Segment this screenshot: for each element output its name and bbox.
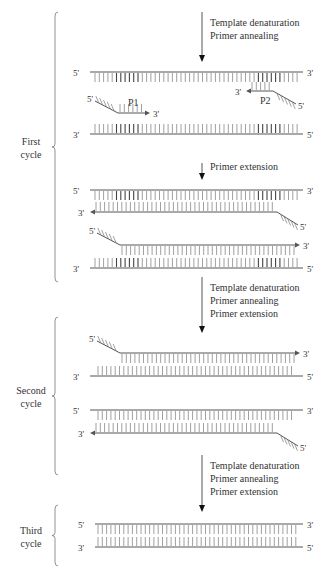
five-prime-label: 5' (300, 222, 307, 232)
three-prime-label: 3' (78, 543, 85, 553)
three-prime-label: 3' (235, 87, 242, 97)
cycle-brace (52, 317, 58, 475)
step-label: Template denaturation (210, 17, 300, 28)
pcr-diagram: FirstcycleSecondcycleThirdcycle Template… (0, 0, 332, 575)
step-label: Primer extension (210, 308, 278, 319)
five-prime-label: 5' (307, 264, 314, 274)
three-prime-label: 3' (303, 241, 310, 251)
arrow-head-icon (199, 505, 205, 512)
cycle-label: cycle (20, 398, 42, 409)
cycle-brace (52, 505, 58, 566)
three-prime-label: 3' (307, 406, 314, 416)
five-prime-label: 5' (307, 543, 314, 553)
five-prime-label: 5' (73, 186, 80, 196)
five-prime-label: 5' (300, 443, 307, 453)
five-prime-label: 5' (307, 372, 314, 382)
step-label: Primer extension (210, 486, 278, 497)
strand-arrow-icon (90, 431, 95, 436)
strand-arrow-icon (145, 111, 150, 116)
three-prime-label: 3' (73, 264, 80, 274)
three-prime-label: 3' (303, 349, 310, 359)
step-label: Primer extension (210, 161, 278, 172)
step-label: Primer annealing (210, 295, 279, 306)
arrow-head-icon (199, 326, 205, 333)
three-prime-label: 3' (307, 520, 314, 530)
three-prime-label: 3' (307, 68, 314, 78)
primer-p1-label: P1 (128, 97, 139, 108)
step-label: Primer annealing (210, 473, 279, 484)
step-label: Primer annealing (210, 30, 279, 41)
cycle-label: Third (20, 525, 42, 536)
five-prime-label: 5' (307, 130, 314, 140)
cycle-label: First (22, 136, 41, 147)
five-prime-label: 5' (73, 406, 80, 416)
three-prime-label: 3' (73, 372, 80, 382)
three-prime-label: 3' (307, 186, 314, 196)
five-prime-label: 5' (89, 334, 96, 344)
arrow-head-icon (199, 173, 205, 180)
five-prime-label: 5' (87, 94, 94, 104)
cycle-label: cycle (20, 149, 42, 160)
five-prime-label: 5' (73, 68, 80, 78)
cycle-label: cycle (20, 538, 42, 549)
three-prime-label: 3' (153, 109, 160, 119)
three-prime-label: 3' (78, 208, 85, 218)
strand-arrow-icon (295, 351, 300, 356)
strand-arrow-icon (246, 89, 251, 94)
step-label: Template denaturation (210, 460, 300, 471)
arrow-head-icon (199, 55, 205, 62)
primer-p2-label: P2 (260, 95, 271, 106)
strand-arrow-icon (295, 243, 300, 248)
strand-arrow-icon (90, 210, 95, 215)
three-prime-label: 3' (78, 429, 85, 439)
three-prime-label: 3' (73, 130, 80, 140)
cycle-braces: FirstcycleSecondcycleThirdcycle (16, 12, 58, 566)
cycle-label: Second (16, 385, 45, 396)
cycle-brace (52, 12, 58, 282)
five-prime-label: 5' (89, 226, 96, 236)
step-label: Template denaturation (210, 282, 300, 293)
five-prime-label: 5' (78, 520, 85, 530)
five-prime-label: 5' (298, 101, 305, 111)
